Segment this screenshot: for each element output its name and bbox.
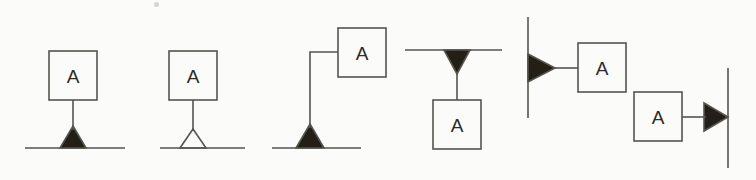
symbol-variant-1: A [25, 51, 125, 148]
variant-4-box-label: A [451, 115, 464, 136]
variant-4-filled-triangle-down [444, 50, 470, 74]
symbol-variant-3: A [272, 28, 386, 148]
variant-5a-box-label: A [596, 58, 609, 79]
diagram-canvas: A A A A [0, 0, 756, 180]
variant-3-elbow-connector [310, 52, 338, 128]
scan-speck-artifact [154, 2, 159, 7]
variant-1-box-label: A [67, 66, 80, 87]
variant-5b-box-label: A [652, 107, 665, 128]
symbol-variant-5a: A [528, 17, 626, 118]
variant-2-hollow-triangle-up [180, 129, 206, 148]
variant-2-box-label: A [187, 66, 200, 87]
symbol-variant-2: A [160, 51, 245, 148]
variant-5a-filled-triangle-right [528, 54, 555, 82]
variant-5b-filled-triangle-right [704, 103, 728, 131]
symbols-svg: A A A A [0, 0, 756, 180]
variant-3-box-label: A [356, 43, 369, 64]
symbol-variant-4: A [405, 50, 502, 149]
symbol-variant-5b: A [634, 68, 728, 168]
